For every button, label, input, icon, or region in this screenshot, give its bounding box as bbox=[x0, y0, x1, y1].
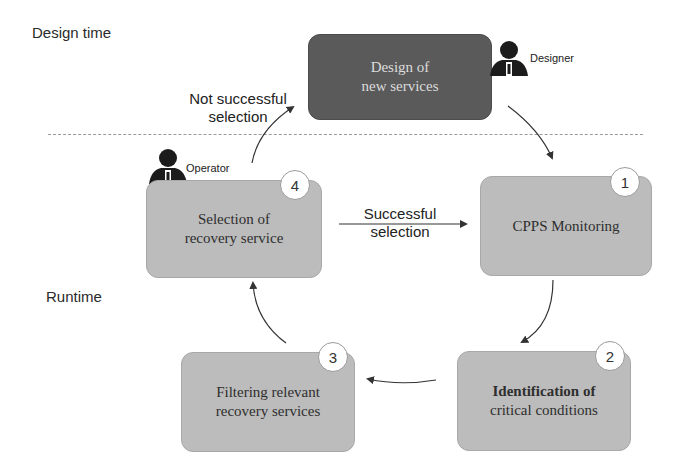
arrow-identification-to-filtering bbox=[368, 379, 436, 383]
step-badge-3: 3 bbox=[318, 342, 348, 372]
node-label: Selection of recovery service bbox=[185, 210, 284, 248]
step-badge-2: 2 bbox=[595, 341, 625, 371]
node-label: Filtering relevant recovery services bbox=[216, 383, 321, 421]
successful-selection-label: Successful selection bbox=[340, 205, 460, 241]
step-badge-1: 1 bbox=[610, 167, 640, 197]
arrow-design-to-monitoring bbox=[508, 106, 552, 158]
arrow-filtering-to-selection bbox=[253, 283, 286, 343]
node-design-new-services: Design of new services bbox=[308, 34, 492, 120]
node-label: Design of new services bbox=[361, 58, 438, 96]
arrow-monitoring-to-identification bbox=[522, 280, 553, 342]
not-successful-selection-label: Not successful selection bbox=[176, 90, 300, 126]
node-label-line2: critical conditions bbox=[490, 401, 598, 420]
node-label: CPPS Monitoring bbox=[512, 217, 619, 236]
operator-label: Operator bbox=[186, 162, 229, 174]
designer-person-icon bbox=[488, 40, 530, 78]
designer-label: Designer bbox=[530, 52, 574, 64]
step-badge-4: 4 bbox=[280, 170, 310, 200]
node-label-line1: Identification of bbox=[490, 382, 598, 401]
